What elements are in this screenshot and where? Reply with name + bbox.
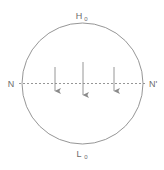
label-bottom-l-subscript: 0: [84, 154, 88, 160]
label-top-h: H: [76, 11, 83, 21]
label-left-n: N: [8, 79, 15, 89]
diagram-canvas: H 0 L 0 N N': [0, 0, 164, 170]
label-bottom-l: L: [76, 149, 81, 159]
label-right-n-prime: N': [149, 79, 157, 89]
label-top-h-subscript: 0: [84, 16, 88, 22]
physics-diagram-figure: H 0 L 0 N N': [0, 0, 164, 170]
